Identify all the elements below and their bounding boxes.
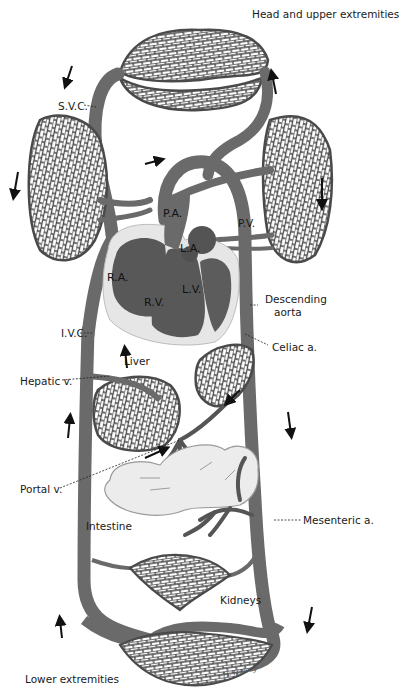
label-mesenteric-a: Mesenteric a. <box>303 514 374 526</box>
left-lung-capillary-bed <box>29 116 107 260</box>
head-capillary-bed <box>120 30 268 110</box>
label-intestine: Intestine <box>86 520 132 532</box>
arrow-down-icon <box>14 172 18 195</box>
label-kidneys: Kidneys <box>220 594 261 606</box>
label-descending-aorta: Descending <box>265 293 327 305</box>
label-liver: Liver <box>124 355 150 367</box>
label-ivc: I.V.C. <box>61 327 87 339</box>
intestine <box>105 445 259 515</box>
label-hepatic-v: Hepatic v. <box>20 375 72 387</box>
label-descending-aorta-2: aorta <box>274 306 302 318</box>
label-ra: R.A. <box>107 272 129 284</box>
arrow-down-icon <box>288 412 291 434</box>
label-head-upper-extremities: Head and upper extremities <box>252 8 399 20</box>
arrow-down-icon <box>66 66 72 84</box>
label-celiac: Celiac a. <box>272 341 317 353</box>
label-la: L.A. <box>180 243 200 255</box>
label-rv: R.V. <box>144 297 164 309</box>
arrow-up-icon <box>68 418 70 438</box>
label-svc: S.V.C. <box>58 100 88 112</box>
arrow-up-icon <box>60 620 62 638</box>
arrow-down-icon <box>308 607 312 628</box>
arrow-right-icon <box>145 160 160 164</box>
label-pa: P.A. <box>163 208 182 220</box>
label-portal-v: Portal v. <box>20 483 62 495</box>
label-pv: P.V. <box>238 217 255 229</box>
label-lv: L.V. <box>182 284 201 296</box>
label-lower-extremities: Lower extremities <box>25 673 119 685</box>
